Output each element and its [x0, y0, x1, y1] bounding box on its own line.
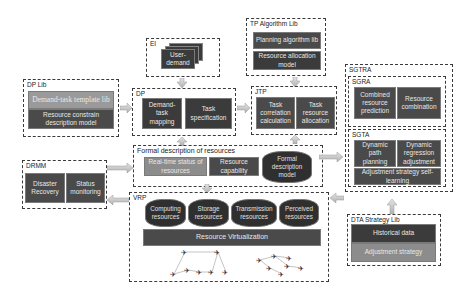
sgta-group: SGTA Dynamic path planning Dynamic regre… — [348, 129, 446, 187]
resource-capability: Resource capability — [209, 157, 259, 176]
formal-description-model: Formal description model — [262, 151, 312, 183]
planning-algorithm-lib: Planning algorithm lib — [253, 32, 321, 49]
ei-group: EI User- demand — [146, 38, 220, 77]
real-time-status-of-resources: Real-time status of resources — [144, 157, 207, 176]
disaster-recovery: Disaster Recovery — [25, 173, 65, 203]
dp-lib-label: DP Lib — [27, 81, 46, 88]
arrow-ei-to-dp — [177, 78, 187, 88]
sgta-label: SGTA — [352, 131, 369, 138]
demand-task-mapping: Demand-task mapping — [142, 98, 182, 129]
sgra-label: SGRA — [352, 78, 370, 85]
svg-text:✈: ✈ — [222, 269, 228, 277]
svg-text:✈: ✈ — [208, 269, 214, 277]
user-demand-box: User- demand — [161, 49, 195, 69]
ei-label: EI — [150, 40, 156, 47]
resource-allocation-model: Resource allocation model — [253, 51, 321, 70]
task-correlation-calculation: Task correlation calculation — [256, 97, 295, 129]
arrow-sgtra-to-vrp — [330, 193, 344, 203]
transmission-resources: Transmission resources — [231, 199, 277, 227]
jtp-group: JTP Task correlation calculation Task re… — [251, 86, 337, 135]
resource-combination: Resource combination — [397, 87, 441, 119]
dta-strategy-lib-group: DTA Strategy Lib Historical data Adjustm… — [347, 214, 441, 266]
tp-algorithm-lib-label: TP Algorithm Lib — [250, 20, 298, 27]
resource-constrain-description-model: Resource constrain description model — [28, 109, 114, 129]
combined-resource-prediction: Combined resource prediction — [354, 87, 396, 119]
arrow-formal-to-sgta — [319, 152, 343, 162]
dynamic-regression-adjustment: Dynamic regression adjustment — [397, 140, 441, 167]
arrow-drmm-to-formal — [107, 163, 133, 173]
svg-text:✈: ✈ — [214, 249, 220, 257]
sgra-group: SGRA Combined resource prediction Resour… — [348, 76, 446, 127]
task-resource-allocation: Task resource allocation — [296, 97, 335, 129]
tp-algorithm-lib-group: TP Algorithm Lib Planning algorithm lib … — [246, 18, 326, 76]
svg-text:✈: ✈ — [196, 269, 202, 277]
formal-description-label: Formal description of resources — [137, 147, 235, 154]
svg-text:✈: ✈ — [271, 253, 277, 261]
dynamic-path-planning: Dynamic path planning — [354, 140, 396, 167]
dp-group: DP Demand-task mapping Task specificatio… — [132, 88, 236, 136]
formal-description-group: Formal description of resources Real-tim… — [133, 145, 323, 187]
arrow-dplib-to-dp — [120, 103, 132, 113]
status-monitoring: Status monitoring — [66, 173, 105, 203]
dp-label: DP — [136, 90, 145, 97]
perceived-resources: Perceived resources — [279, 199, 319, 227]
task-specification: Task specification — [185, 98, 232, 129]
drmm-group: DRMM Disaster Recovery Status monitoring — [22, 160, 107, 209]
svg-text:✈: ✈ — [298, 265, 304, 273]
svg-text:✈: ✈ — [184, 267, 190, 275]
svg-text:✈: ✈ — [266, 265, 272, 273]
svg-text:✈: ✈ — [256, 257, 262, 265]
vrp-label: VRP — [133, 194, 146, 201]
svg-text:✈: ✈ — [181, 249, 187, 257]
dta-strategy-lib-label: DTA Strategy Lib — [351, 216, 400, 223]
sgtra-group: SGTRA SGRA Combined resource prediction … — [345, 64, 453, 192]
demand-task-template-lib: Demand-task template lib — [28, 91, 114, 109]
drmm-label: DRMM — [26, 162, 46, 169]
svg-text:✈: ✈ — [286, 255, 292, 263]
network-topology-icon: ✈✈ ✈✈✈✈✈ ✈✈✈✈✈✈✈ — [150, 248, 320, 280]
svg-text:✈: ✈ — [278, 271, 284, 279]
adjustment-strategy: Adjustment strategy — [351, 243, 436, 262]
vrp-group: VRP Computing resources Storage resource… — [129, 192, 329, 282]
svg-text:✈: ✈ — [284, 263, 290, 271]
arrow-formal-to-jtp — [290, 135, 300, 144]
historical-data: Historical data — [351, 224, 436, 243]
jtp-label: JTP — [255, 88, 267, 95]
arrow-dta-to-sgtra — [387, 199, 397, 214]
arrow-vrp-to-drmm — [107, 195, 129, 205]
arrow-dp-to-jtp — [237, 103, 250, 113]
sgtra-label: SGTRA — [349, 66, 371, 73]
storage-resources: Storage resources — [188, 199, 229, 227]
dp-lib-group: DP Lib Demand-task template lib Resource… — [23, 79, 119, 137]
svg-text:✈: ✈ — [170, 271, 176, 279]
adjustment-strategy-self-learning: Adjustment strategy self-learning — [354, 168, 441, 185]
resource-virtualization: Resource Virtualization — [143, 229, 321, 246]
computing-resources: Computing resources — [145, 199, 186, 227]
